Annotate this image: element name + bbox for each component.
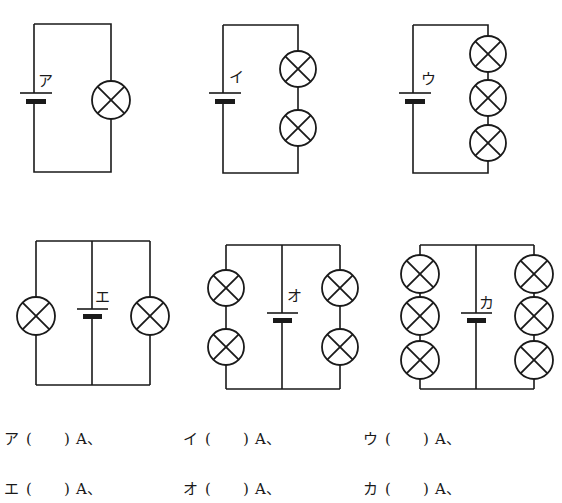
lamp-icon — [401, 341, 439, 379]
battery-negative-plate — [26, 99, 46, 104]
circuit-label-e: エ — [95, 288, 110, 306]
answer-i: イ ( ) A、 — [183, 430, 281, 448]
circuit-label-a: ア — [38, 72, 53, 90]
answer-blank-e[interactable] — [38, 480, 64, 498]
lamp-icon — [515, 297, 553, 335]
unit-label: A、 — [435, 430, 461, 448]
lamp-icon — [208, 329, 244, 365]
unit-label: A、 — [255, 480, 281, 498]
answer-label: エ — [4, 480, 26, 498]
lamp-icon — [515, 341, 553, 379]
answer-blank-a[interactable] — [38, 430, 64, 448]
answer-a: ア ( ) A、 — [4, 430, 102, 448]
answer-blank-o[interactable] — [217, 480, 243, 498]
lamp-icon — [401, 297, 439, 335]
lamp-icon — [470, 36, 506, 72]
answer-label: オ — [183, 480, 205, 498]
answer-label: イ — [183, 430, 205, 448]
battery-negative-plate — [215, 99, 235, 104]
answer-label: ア — [4, 430, 26, 448]
unit-label: A、 — [76, 480, 102, 498]
lamp-icon — [470, 125, 506, 161]
lamp-icon — [470, 80, 506, 116]
circuit-label-o: オ — [287, 287, 302, 305]
lamp-icon — [322, 270, 358, 306]
lamp-icon — [322, 329, 358, 365]
unit-label: A、 — [76, 430, 102, 448]
circuit-a: ア — [20, 24, 130, 172]
answer-ka: カ ( ) A、 — [363, 480, 461, 498]
lamp-icon — [131, 297, 169, 335]
answer-label: ウ — [363, 430, 385, 448]
answer-blank-u[interactable] — [397, 430, 423, 448]
answer-u: ウ ( ) A、 — [363, 430, 461, 448]
circuit-o: オ — [208, 245, 358, 389]
circuit-label-i: イ — [229, 68, 244, 86]
battery-negative-plate — [273, 318, 292, 323]
lamp-icon — [208, 270, 244, 306]
answer-blank-i[interactable] — [217, 430, 243, 448]
circuit-e: エ — [17, 241, 169, 385]
circuit-diagrams: ア イ ウ — [0, 0, 562, 400]
circuit-label-ka: カ — [479, 294, 494, 312]
unit-label: A、 — [435, 480, 461, 498]
answer-o: オ ( ) A、 — [183, 480, 281, 498]
circuit-label-u: ウ — [421, 70, 436, 88]
lamp-icon — [17, 297, 55, 335]
battery-negative-plate — [405, 99, 425, 104]
unit-label: A、 — [255, 430, 281, 448]
lamp-icon — [401, 255, 439, 293]
answer-e: エ ( ) A、 — [4, 480, 102, 498]
lamp-icon — [280, 110, 316, 146]
circuit-ka: カ — [401, 245, 553, 389]
battery-negative-plate — [467, 318, 486, 323]
lamp-icon — [92, 81, 130, 119]
circuit-u: ウ — [399, 25, 506, 173]
circuit-i: イ — [209, 25, 316, 173]
lamp-icon — [280, 51, 316, 87]
answer-blank-ka[interactable] — [397, 480, 423, 498]
answer-label: カ — [363, 480, 385, 498]
lamp-icon — [515, 255, 553, 293]
battery-negative-plate — [83, 314, 102, 319]
